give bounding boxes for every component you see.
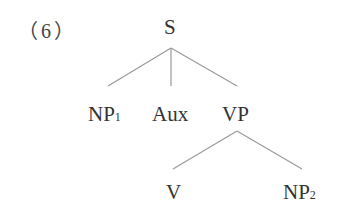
node-np2-subscript: 2 [310, 188, 316, 202]
node-vp: VP [222, 104, 249, 125]
node-aux: Aux [152, 104, 188, 125]
node-np1-label: NP [88, 102, 115, 126]
edge-s-vp [171, 48, 237, 86]
node-v: V [166, 182, 181, 203]
node-np1: NP1 [88, 104, 121, 125]
edge-vp-np2 [237, 131, 302, 169]
node-vp-label: VP [222, 102, 249, 126]
node-np2: NP2 [283, 182, 316, 203]
node-np1-subscript: 1 [115, 110, 121, 124]
node-s-label: S [164, 15, 176, 39]
node-s: S [164, 17, 176, 38]
edge-s-np1 [108, 48, 171, 86]
edge-vp-v [173, 131, 237, 169]
node-np2-label: NP [283, 180, 310, 204]
node-aux-label: Aux [152, 102, 188, 126]
node-v-label: V [166, 180, 181, 204]
